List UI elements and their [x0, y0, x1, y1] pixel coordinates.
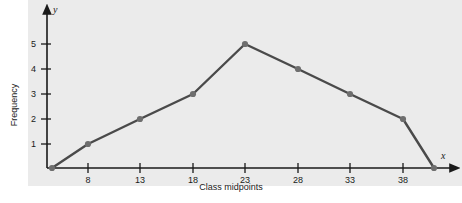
data-point-markers [49, 41, 437, 171]
y-axis-ticks [41, 44, 51, 144]
data-point [49, 165, 55, 171]
y-tick-label-3: 3 [24, 89, 36, 99]
y-axis-title: Frequency [9, 70, 19, 140]
data-point [242, 41, 248, 47]
data-point [431, 165, 437, 171]
data-series-line [52, 44, 434, 168]
y-tick-label-1: 1 [24, 139, 36, 149]
data-point [400, 116, 406, 122]
data-point [347, 91, 353, 97]
y-tick-label-5: 5 [24, 39, 36, 49]
y-tick-label-2: 2 [24, 114, 36, 124]
data-point [190, 91, 196, 97]
y-tick-label-4: 4 [24, 64, 36, 74]
chart-canvas [0, 0, 462, 203]
data-point [295, 66, 301, 72]
data-point [85, 141, 91, 147]
x-axis-title: Class midpoints [0, 182, 462, 192]
data-point [137, 116, 143, 122]
x-axis-letter: x [441, 150, 445, 161]
frequency-polygon-figure: 1 2 3 4 5 8 13 18 23 28 33 38 Frequency … [0, 0, 462, 203]
y-axis-letter: y [53, 4, 57, 15]
